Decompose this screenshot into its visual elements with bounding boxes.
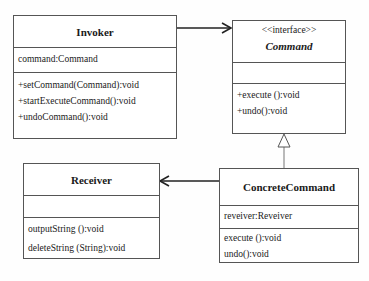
method: +startExecuteCommand():void (14, 93, 176, 109)
method: execute ():void (220, 230, 358, 246)
methods-section: +setCommand(Command):void +startExecuteC… (14, 73, 176, 125)
class-concrete-command: ConcreteCommand reveiver:Reveiver execut… (219, 168, 359, 263)
class-command: <<interface>> Command +execute ():void +… (232, 20, 346, 134)
method: deleteString (String):void (24, 239, 159, 258)
attribute: command:Command (14, 51, 176, 67)
method: outputString ():void (24, 220, 159, 239)
methods-section: execute ():void undo():void (220, 229, 358, 262)
method: +undoCommand():void (14, 109, 176, 125)
class-invoker: Invoker command:Command +setCommand(Comm… (13, 15, 177, 139)
class-name: Invoker (14, 16, 176, 48)
class-name: ConcreteCommand (220, 169, 358, 206)
methods-section: outputString ():void deleteString (Strin… (24, 218, 159, 258)
class-name: Command (233, 40, 345, 52)
methods-section: +execute ():void +undo():void (233, 84, 345, 119)
attributes-section: reveiver:Reveiver (220, 206, 358, 229)
method: +undo():void (233, 103, 345, 119)
attribute: reveiver:Reveiver (220, 208, 358, 224)
attributes-section (233, 63, 345, 84)
class-name: Receiver (24, 164, 159, 196)
stereotype: <<interface>> (233, 25, 345, 35)
realization-triangle-icon (278, 134, 290, 147)
attributes-section: command:Command (14, 48, 176, 73)
attributes-section (24, 196, 159, 218)
method: +execute ():void (233, 87, 345, 103)
class-receiver: Receiver outputString ():void deleteStri… (23, 163, 160, 259)
method: undo():void (220, 246, 358, 262)
method: +setCommand(Command):void (14, 77, 176, 93)
header-section: <<interface>> Command (233, 21, 345, 63)
